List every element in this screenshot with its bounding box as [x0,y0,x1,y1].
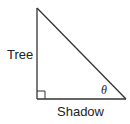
theta-angle-label: θ [101,83,107,97]
shadow-label: Shadow [57,104,105,119]
right-angle-marker [37,91,45,99]
right-triangle-diagram: Tree Shadow θ [0,0,130,124]
tree-label: Tree [7,47,33,62]
hypotenuse [37,8,126,99]
